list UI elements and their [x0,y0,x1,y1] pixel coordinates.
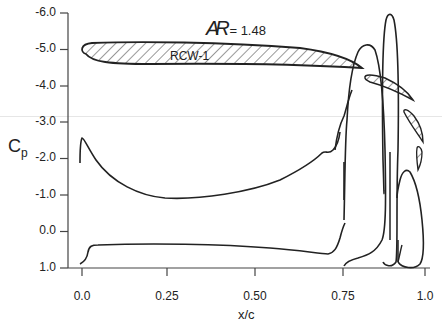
flap3-cp-curve [397,170,423,267]
y-axis-label-main: C [8,136,21,156]
x-tick-label: 0.25 [147,289,187,303]
y-tick-label: -1.0 [6,187,56,201]
main-upper-surface-curve [80,132,340,198]
flap1-airfoil-shape [365,75,413,100]
x-tick-label: 1.0 [405,289,442,303]
main-airfoil-shape [82,42,362,68]
y-tick-label: -4.0 [6,78,56,92]
aspect-ratio-value: = 1.48 [229,23,266,38]
aspect-ratio-symbol: AR [206,17,226,39]
x-tick-label: 0.75 [323,289,363,303]
flap3-airfoil-shape [417,147,422,170]
y-tick-label: 1.0 [6,260,56,274]
main-lower-surface-curve [80,223,345,264]
y-tick-label: -6.0 [6,5,56,19]
flap2-airfoil-shape [404,110,423,142]
x-tick-label: 0.50 [235,289,275,303]
y-axis-label-sub: p [21,146,28,160]
y-axis-label: Cp [8,136,28,160]
x-axis-label: x/c [238,307,255,322]
pressure-distribution-plot [0,0,442,326]
airfoil-name-label: RCW-1 [170,49,209,63]
y-tick-label: -3.0 [6,114,56,128]
y-tick-label: 0.0 [6,223,56,237]
y-tick-label: -5.0 [6,41,56,55]
x-tick-label: 0.0 [62,289,102,303]
aspect-ratio-annotation: AR = 1.48 [206,17,266,40]
